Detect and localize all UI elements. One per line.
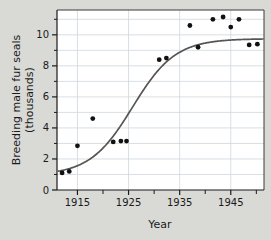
data-point	[237, 17, 242, 22]
x-tick-label: 1915	[65, 197, 90, 208]
y-axis-title-line1: Breeding male fur seals	[10, 34, 23, 165]
data-point	[196, 45, 201, 50]
data-point	[124, 139, 129, 144]
y-tick-label: 0	[43, 185, 49, 196]
data-point	[210, 17, 215, 22]
data-point	[221, 15, 226, 20]
data-point	[118, 139, 123, 144]
data-point	[247, 43, 252, 48]
data-point	[255, 42, 260, 47]
x-tick-label: 1935	[167, 197, 192, 208]
data-point	[60, 171, 65, 176]
data-point	[157, 57, 162, 62]
figure-container: 0246810 1915192519351945 Year Breeding m…	[0, 0, 271, 240]
plot-panel-background	[57, 10, 264, 190]
data-point	[75, 143, 80, 148]
data-point	[67, 169, 72, 174]
data-point	[228, 25, 233, 30]
y-tick-label: 10	[36, 29, 49, 40]
y-tick-label: 8	[43, 60, 49, 71]
y-tick-label: 2	[43, 153, 49, 164]
x-axis-title: Year	[147, 218, 172, 231]
y-tick-label: 6	[43, 91, 49, 102]
x-tick-label: 1945	[218, 197, 243, 208]
data-point	[164, 56, 169, 61]
y-tick-label: 4	[43, 122, 49, 133]
data-point	[90, 116, 95, 121]
x-tick-label: 1925	[116, 197, 141, 208]
y-axis-title-line2: (thousands)	[23, 67, 36, 133]
seal-population-scatter-chart: 0246810 1915192519351945 Year Breeding m…	[0, 0, 271, 240]
data-point	[111, 140, 116, 145]
data-point	[187, 23, 192, 28]
